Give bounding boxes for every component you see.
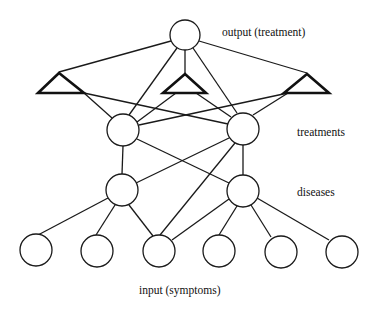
gating-triangle-right [284, 74, 329, 93]
input-node-6 [326, 236, 358, 268]
disease-node-1 [106, 174, 138, 206]
input-node-2 [81, 235, 113, 267]
edges [38, 41, 329, 240]
output-label: output (treatment) [222, 26, 306, 39]
input-node-3 [143, 235, 175, 267]
gating-triangle-left [38, 73, 84, 93]
treatment-node-2 [227, 113, 259, 145]
network-diagram: output (treatment) treatments diseases i… [0, 0, 377, 314]
input-node-4 [203, 235, 235, 267]
treatment-node-1 [107, 114, 139, 146]
diseases-label: diseases [297, 186, 335, 198]
input-label: input (symptoms) [139, 284, 221, 297]
treatments-label: treatments [297, 126, 345, 138]
input-node-5 [265, 236, 297, 268]
output-node [170, 20, 200, 50]
input-node-1 [20, 234, 52, 266]
disease-node-2 [227, 175, 259, 207]
gating-triangle-middle [163, 74, 206, 93]
